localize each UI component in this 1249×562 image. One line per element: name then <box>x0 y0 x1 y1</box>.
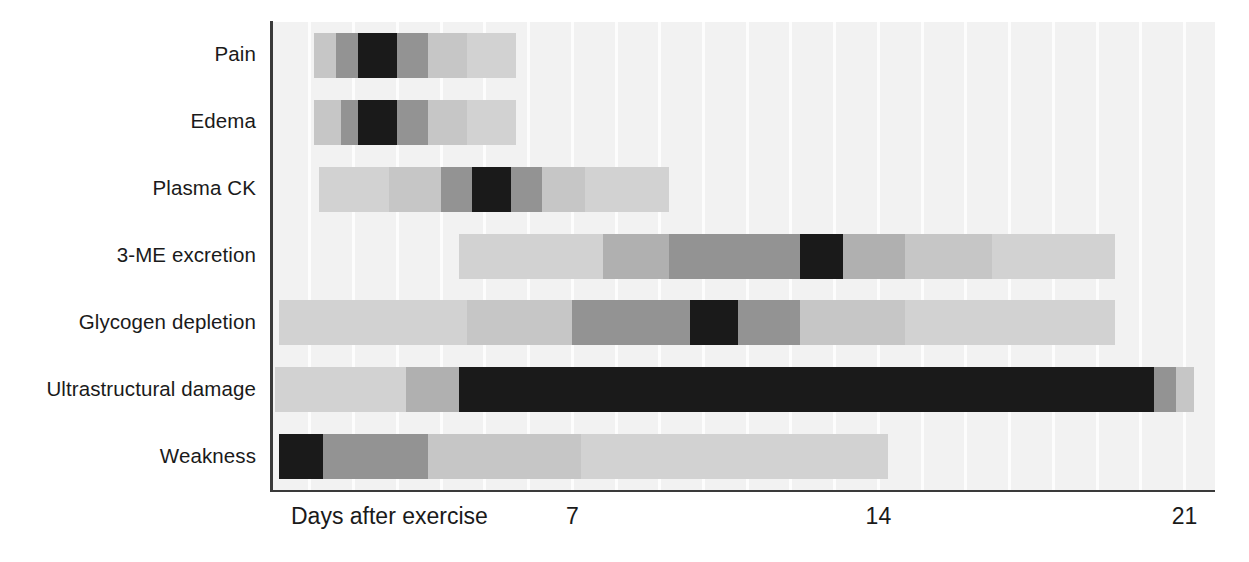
category-label-weakness: Weakness <box>160 444 256 468</box>
x-axis-title: Days after exercise <box>291 503 488 530</box>
gridline-day-4 <box>440 22 443 490</box>
x-tick-7: 7 <box>532 503 612 530</box>
bar-segment <box>581 434 888 479</box>
bar-segment <box>738 300 800 345</box>
bar-segment <box>275 367 407 412</box>
x-tick-21: 21 <box>1145 503 1225 530</box>
bar-segment <box>467 300 573 345</box>
bar-segment <box>441 167 472 212</box>
bar-row <box>314 33 515 78</box>
bar-segment <box>428 100 468 145</box>
bar-segment <box>459 234 604 279</box>
bar-segment <box>279 300 468 345</box>
chart-root: PainEdemaPlasma CK3-ME excretionGlycogen… <box>0 0 1249 562</box>
bar-row <box>279 434 887 479</box>
category-label-glycogen-depletion: Glycogen depletion <box>79 310 256 334</box>
bar-row <box>459 234 1115 279</box>
bar-segment <box>397 33 428 78</box>
bar-segment <box>585 167 669 212</box>
bar-segment <box>542 167 586 212</box>
bar-segment <box>472 167 512 212</box>
bar-segment <box>358 33 398 78</box>
gridline-day-3 <box>396 22 399 490</box>
bar-segment <box>459 367 1155 412</box>
bar-segment <box>800 300 906 345</box>
bar-segment <box>336 33 358 78</box>
bar-segment <box>279 434 323 479</box>
gridline-day-21 <box>1183 22 1186 490</box>
bar-segment <box>467 100 516 145</box>
category-label-plasma-ck: Plasma CK <box>153 176 256 200</box>
bar-segment <box>319 167 390 212</box>
gridline-day-20 <box>1139 22 1142 490</box>
category-label-3-me-excretion: 3-ME excretion <box>117 243 256 267</box>
y-axis-line <box>270 21 273 492</box>
gridline-day-2 <box>352 22 355 490</box>
gridline-day-1 <box>308 22 311 490</box>
bar-segment <box>603 234 669 279</box>
bar-segment <box>1176 367 1194 412</box>
bar-row <box>279 300 1114 345</box>
bar-segment <box>690 300 739 345</box>
bar-segment <box>428 434 582 479</box>
category-label-ultrastructural-damage: Ultrastructural damage <box>46 377 256 401</box>
bar-segment <box>341 100 359 145</box>
bar-segment <box>389 167 442 212</box>
bar-row <box>319 167 669 212</box>
category-label-edema: Edema <box>191 109 256 133</box>
bar-segment <box>572 300 691 345</box>
bar-segment <box>992 234 1115 279</box>
bar-segment <box>800 234 844 279</box>
bar-segment <box>905 300 1116 345</box>
bar-segment <box>511 167 542 212</box>
bar-segment <box>358 100 398 145</box>
bar-segment <box>669 234 801 279</box>
bar-segment <box>843 234 905 279</box>
category-label-pain: Pain <box>215 42 256 66</box>
x-tick-14: 14 <box>838 503 918 530</box>
x-axis-line <box>270 490 1215 492</box>
bar-row <box>275 367 1193 412</box>
bar-segment <box>467 33 516 78</box>
bar-segment <box>406 367 459 412</box>
bar-segment <box>323 434 429 479</box>
bar-row <box>314 100 515 145</box>
bar-segment <box>905 234 993 279</box>
bar-segment <box>314 33 336 78</box>
bar-segment <box>1154 367 1176 412</box>
bar-segment <box>397 100 428 145</box>
bar-segment <box>428 33 468 78</box>
bar-segment <box>314 100 341 145</box>
